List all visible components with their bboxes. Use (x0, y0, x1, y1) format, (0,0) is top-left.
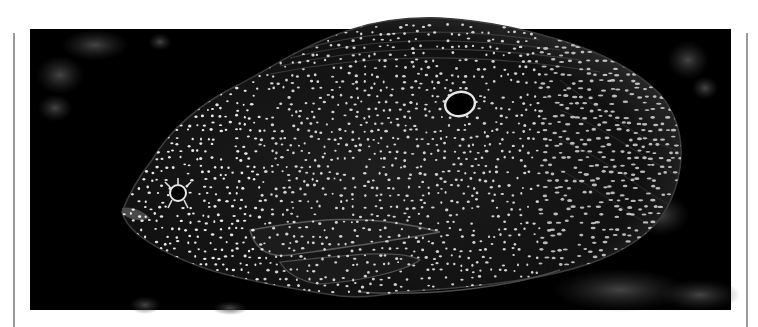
fish-spot (531, 271, 533, 274)
fish-spot (559, 61, 564, 63)
fish-spot (380, 123, 383, 125)
fish-spot (560, 73, 565, 75)
fish-spot (617, 200, 621, 202)
fish-spot (556, 222, 562, 224)
fish-spot (496, 128, 499, 131)
fish-spot (520, 276, 522, 278)
fish-spot (201, 171, 204, 174)
fish-spot (223, 177, 225, 179)
fish-spot (447, 39, 450, 42)
fish-spot (331, 89, 334, 91)
fish-spot (514, 228, 517, 231)
fish-spot (221, 248, 224, 251)
fish-spot (226, 268, 228, 271)
fish-spot (254, 150, 257, 152)
fish-spot (599, 213, 603, 216)
fish-spot (341, 80, 344, 82)
fish-spot (608, 115, 612, 117)
fish-spot (204, 251, 207, 253)
fish-spot (263, 278, 266, 281)
fish-spot (406, 278, 409, 280)
fish-spot (593, 256, 598, 259)
fish-spot (453, 248, 456, 251)
fish-spot (351, 241, 355, 243)
fish-spot (519, 55, 522, 58)
fish-spot (308, 264, 310, 267)
fish-spot (345, 102, 347, 105)
fish-spot (436, 250, 439, 253)
fish-spot (275, 194, 278, 197)
fish-spot (562, 46, 567, 48)
fish-spot (261, 26, 263, 29)
fish-spot (319, 87, 322, 89)
fish-spot (311, 87, 314, 89)
fish-spot (279, 138, 282, 140)
fish-spot (318, 222, 321, 225)
fish-spot (520, 192, 522, 195)
fish-spot (544, 257, 549, 259)
fish-spot (358, 53, 360, 55)
fish-spot (261, 248, 264, 251)
fish-spot (363, 172, 366, 175)
fish-spot (449, 89, 452, 92)
fish-spot (321, 243, 324, 245)
fish-spot (202, 215, 204, 217)
fish-spot (602, 121, 607, 123)
fish-spot (379, 45, 382, 47)
fish-spot (142, 178, 145, 181)
fish-spot (299, 110, 303, 112)
fish-spot (152, 172, 155, 174)
fish-spot (457, 129, 460, 131)
fish-spot (265, 257, 267, 260)
fish-spot (292, 152, 295, 155)
fish-spot (390, 206, 393, 208)
fish-spot (459, 87, 462, 89)
fish-spot (476, 192, 479, 195)
fish-spot (464, 124, 466, 126)
fish-spot (300, 122, 303, 125)
fish-spot (613, 234, 618, 236)
fish-spot (460, 269, 462, 271)
fish-spot (387, 33, 391, 36)
fish-spot (610, 79, 615, 82)
fish-spot (343, 187, 346, 189)
fish-spot (567, 199, 572, 202)
fish-spot (512, 145, 515, 147)
fish-spot (411, 61, 415, 64)
fish-spot (356, 221, 359, 223)
fish-spot (331, 291, 334, 293)
fish-spot (504, 156, 506, 159)
fish-spot (375, 195, 378, 197)
fish-spot (612, 94, 617, 97)
fish-spot (191, 25, 194, 27)
fish-spot (543, 241, 548, 244)
fish-spot (522, 102, 525, 105)
fish-spot (522, 60, 525, 63)
fish-spot (345, 243, 347, 246)
fish-spot (351, 138, 354, 141)
fish-spot (620, 194, 625, 196)
fish-spot (428, 241, 430, 243)
fish-spot (485, 261, 489, 263)
fish-spot (160, 185, 163, 187)
fish-spot (154, 212, 157, 215)
fish-spot (157, 192, 159, 194)
fish-spot (562, 229, 566, 232)
fish-spot (314, 159, 316, 162)
fish-spot (519, 149, 522, 152)
fish-spot (403, 199, 405, 201)
fish-spot (352, 83, 355, 85)
fish-spot (408, 216, 411, 218)
fish-spot (339, 194, 343, 197)
fish-spot (304, 159, 307, 161)
fish-spot (214, 177, 217, 180)
fish-spot (605, 136, 610, 139)
fish-spot (377, 129, 380, 131)
fish-spot (593, 117, 598, 119)
fish-spot (426, 215, 429, 218)
fish-spot (452, 51, 455, 54)
fish-spot (419, 199, 422, 201)
fish-spot (215, 193, 217, 195)
fish-spot (416, 144, 419, 147)
fish-spot (353, 104, 356, 106)
